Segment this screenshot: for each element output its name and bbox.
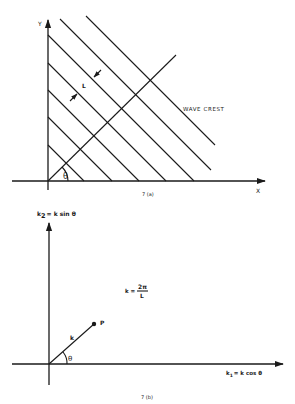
svg-text:L: L [140,292,144,299]
caption-b: 7 (b) [141,394,153,400]
spacing-arrow-upper [94,70,101,77]
figure-a: Y X θ L WAVE CREST 7 (a) [12,16,265,197]
x-axis-label-b: k1= k cos θ [226,370,262,378]
figure-canvas: Y X θ L WAVE CREST 7 (a) k2= k sin θ k1=… [0,0,295,404]
wavenumber-formula: k = 2π L [125,283,148,299]
svg-text:k =: k = [125,288,136,294]
figure-b: k2= k sin θ k1= k cos θ P k θ k = 2π L 7… [12,210,283,400]
spacing-arrow-lower [70,94,77,101]
wave-crest-label: WAVE CREST [183,106,225,112]
angle-arc-b [63,352,67,364]
point-p-label: P [100,319,105,326]
svg-text:2π: 2π [138,283,147,290]
y-axis-label-a: Y [37,20,42,27]
x-axis-label-a: X [256,187,260,194]
y-axis-label-b: k2= k sin θ [37,210,76,220]
caption-a: 7 (a) [142,191,154,197]
spacing-label: L [82,82,86,89]
angle-label-b: θ [68,355,72,363]
angle-label-a: θ [63,172,68,181]
point-p [92,322,96,326]
vector-k-label: k [70,334,75,341]
propagation-direction-line [48,55,176,181]
